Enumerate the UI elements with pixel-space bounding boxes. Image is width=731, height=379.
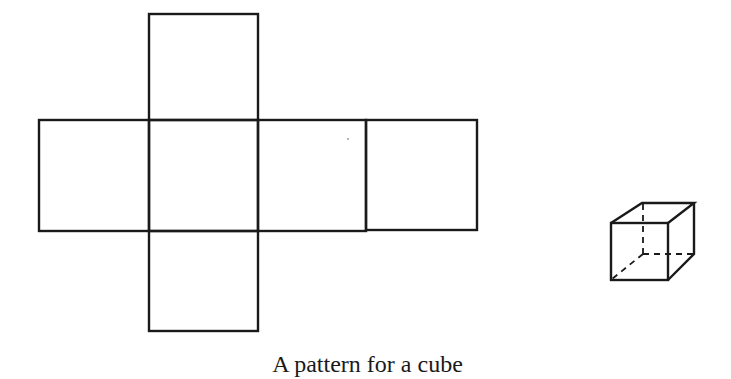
net-face-left bbox=[39, 120, 149, 231]
net-face-bottom bbox=[149, 231, 258, 331]
net-face-far-right bbox=[366, 120, 477, 230]
assembled-cube bbox=[611, 203, 694, 280]
net-face-top bbox=[149, 14, 258, 120]
cube-front-face bbox=[611, 223, 668, 280]
cube-right-edges bbox=[668, 203, 694, 280]
net-face-right bbox=[258, 120, 366, 231]
speck bbox=[347, 138, 349, 140]
cube-net bbox=[39, 14, 477, 331]
cube-diagram bbox=[0, 0, 731, 379]
figure-caption: A pattern for a cube bbox=[250, 349, 485, 379]
cube-top-edges bbox=[611, 203, 694, 223]
net-face-center bbox=[149, 120, 258, 231]
